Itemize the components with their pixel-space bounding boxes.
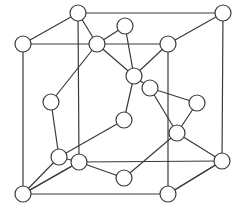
atom-back-bl: [71, 154, 87, 170]
bond-line: [78, 13, 79, 162]
atom-back-br: [214, 153, 230, 169]
atom-top-face: [89, 36, 105, 52]
atom-front-bl: [15, 186, 31, 202]
atom-inner-d: [169, 125, 185, 141]
bond-line: [51, 44, 97, 102]
bond-line: [168, 13, 223, 44]
atom-back-tr: [215, 5, 231, 21]
atom-inner-e: [51, 149, 67, 165]
atom-nodes: [15, 5, 231, 202]
atom-center-a: [126, 68, 142, 84]
atom-bottom-face: [116, 170, 132, 186]
bond-line: [124, 133, 177, 178]
diamond-cubic-lattice-diagram: [0, 0, 235, 208]
atom-front-tl: [15, 36, 31, 52]
atom-left-face: [43, 94, 59, 110]
atom-inner-c: [116, 112, 132, 128]
bond-line: [23, 13, 78, 44]
bond-line: [222, 13, 223, 161]
bond-line: [79, 161, 222, 162]
bond-line: [168, 161, 222, 194]
atom-back-face: [117, 18, 133, 34]
bond-line: [59, 120, 124, 157]
atom-right-face: [189, 95, 205, 111]
atom-back-tl: [70, 5, 86, 21]
atom-front-tr: [160, 36, 176, 52]
atom-front-br: [160, 186, 176, 202]
bond-line: [23, 162, 79, 194]
atom-inner-b: [142, 80, 158, 96]
